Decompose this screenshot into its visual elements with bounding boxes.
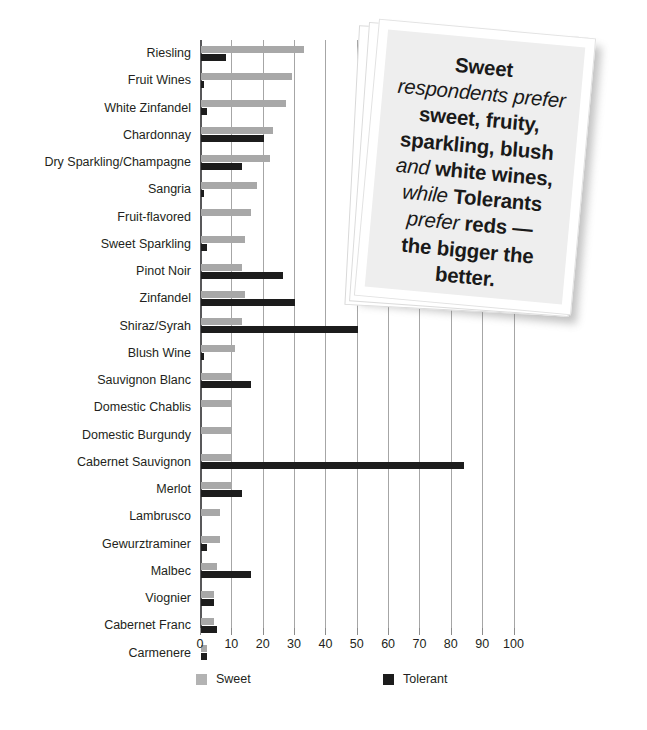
bar-sweet [201, 618, 214, 625]
bar-row: Blush Wine [200, 340, 544, 367]
x-tick-20 [263, 628, 264, 635]
x-axis: 0102030405060708090100 [200, 628, 544, 654]
x-tick-100 [514, 628, 515, 635]
category-label: Dry Sparkling/Champagne [44, 149, 191, 176]
category-label: Sauvignon Blanc [97, 367, 191, 394]
bar-tolerant [201, 244, 207, 251]
chart-legend: Sweet Tolerant [190, 672, 550, 692]
category-label: Merlot [156, 476, 191, 503]
bar-row: Shiraz/Syrah [200, 313, 544, 340]
category-label: Fruit Wines [128, 67, 191, 94]
x-tick-label: 90 [475, 637, 489, 651]
legend-label-tolerant: Tolerant [403, 672, 447, 686]
x-tick-40 [325, 628, 326, 635]
bar-sweet [201, 318, 242, 325]
legend-swatch-tolerant-icon [383, 674, 394, 685]
bar-tolerant [201, 135, 264, 142]
bar-sweet [201, 454, 232, 461]
callout-segment: reds — [464, 212, 534, 241]
bar-sweet [201, 236, 245, 243]
bar-tolerant [201, 108, 207, 115]
bar-row: Malbec [200, 558, 544, 585]
bar-sweet [201, 400, 232, 407]
wine-preference-bar-chart: RieslingFruit WinesWhite ZinfandelChardo… [0, 0, 647, 730]
callout-inner-panel: Sweetrespondents prefersweet, fruity,spa… [365, 30, 586, 305]
x-tick-70 [419, 628, 420, 635]
x-tick-label: 80 [444, 637, 458, 651]
bar-sweet [201, 591, 214, 598]
bar-tolerant [201, 272, 283, 279]
bar-row: Gewurztraminer [200, 531, 544, 558]
bar-row: Cabernet Sauvignon [200, 449, 544, 476]
callout-segment: and [395, 153, 436, 179]
bar-row: Domestic Burgundy [200, 422, 544, 449]
category-label: Chardonnay [123, 122, 191, 149]
bar-tolerant [201, 326, 358, 333]
callout-segment: while [401, 180, 454, 208]
bar-sweet [201, 482, 232, 489]
legend-label-sweet: Sweet [216, 672, 251, 686]
x-tick-label: 50 [350, 637, 364, 651]
bar-tolerant [201, 163, 242, 170]
bar-sweet [201, 73, 292, 80]
category-label: Domestic Burgundy [82, 422, 191, 449]
bar-tolerant [201, 81, 204, 88]
callout-segment: Sweet [454, 53, 514, 81]
x-tick-50 [357, 628, 358, 635]
bar-sweet [201, 345, 235, 352]
x-tick-80 [451, 628, 452, 635]
bar-sweet [201, 536, 220, 543]
bar-row: Domestic Chablis [200, 394, 544, 421]
bar-tolerant [201, 462, 464, 469]
bar-tolerant [201, 490, 242, 497]
bar-tolerant [201, 381, 251, 388]
bar-tolerant [201, 599, 214, 606]
x-tick-label: 30 [287, 637, 301, 651]
bar-sweet [201, 563, 217, 570]
x-tick-label: 40 [318, 637, 332, 651]
category-label: Fruit-flavored [117, 204, 191, 231]
bar-tolerant [201, 299, 295, 306]
bar-sweet [201, 182, 257, 189]
callout-front-sheet: Sweetrespondents prefersweet, fruity,spa… [354, 19, 596, 316]
x-tick-label: 100 [503, 637, 524, 651]
category-label: Sweet Sparkling [101, 231, 191, 258]
legend-swatch-sweet-icon [196, 674, 207, 685]
x-tick-0 [200, 628, 201, 635]
legend-item-tolerant: Tolerant [383, 672, 447, 686]
category-label: Malbec [151, 558, 191, 585]
x-tick-30 [294, 628, 295, 635]
bar-row: Lambrusco [200, 503, 544, 530]
callout-segment: prefer [406, 207, 466, 235]
category-label: Sangria [148, 176, 191, 203]
category-label: Shiraz/Syrah [119, 313, 191, 340]
callout-segment: better. [434, 262, 496, 290]
x-tick-label: 10 [224, 637, 238, 651]
category-label: Lambrusco [129, 503, 191, 530]
category-label: Viognier [145, 585, 191, 612]
bar-tolerant [201, 353, 204, 360]
bar-sweet [201, 100, 286, 107]
bar-sweet [201, 209, 251, 216]
bar-sweet [201, 509, 220, 516]
category-label: Domestic Chablis [94, 394, 191, 421]
x-tick-label: 0 [197, 637, 204, 651]
category-label: Pinot Noir [136, 258, 191, 285]
category-label: Riesling [147, 40, 191, 67]
callout-text: Sweetrespondents prefersweet, fruity,spa… [380, 47, 569, 297]
bar-tolerant [201, 54, 226, 61]
x-tick-label: 70 [412, 637, 426, 651]
bar-sweet [201, 155, 270, 162]
bar-tolerant [201, 653, 207, 660]
x-tick-90 [482, 628, 483, 635]
bar-row: Sauvignon Blanc [200, 367, 544, 394]
bar-sweet [201, 264, 242, 271]
bar-row: Viognier [200, 585, 544, 612]
category-label: Blush Wine [128, 340, 191, 367]
bar-sweet [201, 373, 232, 380]
bar-sweet [201, 46, 304, 53]
x-tick-10 [231, 628, 232, 635]
x-tick-label: 20 [256, 637, 270, 651]
category-label: White Zinfandel [104, 95, 191, 122]
bar-tolerant [201, 544, 207, 551]
